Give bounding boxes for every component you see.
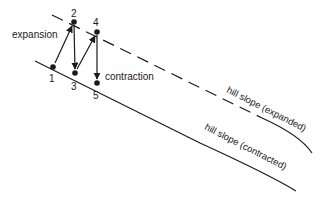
- hill-slope-expanded-dashed-line: [52, 15, 262, 118]
- point-1: [50, 64, 56, 70]
- point-label-2: 2: [71, 8, 77, 19]
- point-label-3: 3: [71, 81, 77, 92]
- arrow-2-to-3: [74, 25, 75, 69]
- point-3: [72, 70, 78, 76]
- expansion-label: expansion: [12, 29, 58, 40]
- frost-creep-diagram: 1 2 3 4 5 expansion contraction hill slo…: [0, 0, 331, 201]
- point-label-1: 1: [49, 73, 55, 84]
- point-4: [94, 29, 100, 35]
- arrow-3-to-4: [77, 36, 95, 69]
- contraction-label: contraction: [105, 71, 154, 82]
- point-label-4: 4: [93, 17, 99, 28]
- point-2: [71, 19, 77, 25]
- hill-slope-expanded-label: hill slope (expanded): [225, 84, 308, 134]
- point-5: [94, 80, 100, 86]
- point-label-5: 5: [93, 90, 99, 101]
